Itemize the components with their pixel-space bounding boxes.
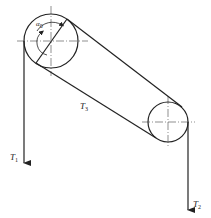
tension-t2-label: T2 xyxy=(193,199,201,210)
angle-label: α0 xyxy=(36,20,43,29)
tension-t1-label: T1 xyxy=(10,152,18,163)
large-pulley: α0 xyxy=(17,6,88,76)
lower-belt-line xyxy=(36,63,156,138)
belt-pulley-diagram: α0 T1 T2 T3 xyxy=(0,0,211,218)
tension-t3-label: T3 xyxy=(80,101,88,112)
inner-angle-arc xyxy=(37,32,47,55)
small-pulley xyxy=(142,96,195,148)
